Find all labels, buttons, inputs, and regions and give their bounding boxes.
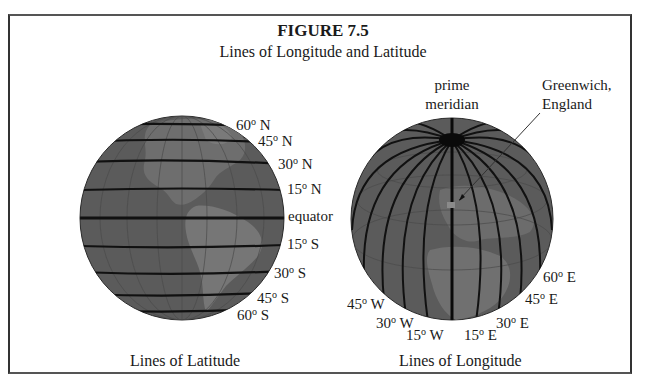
- label-lon-45e: 45o E: [525, 291, 558, 307]
- label-lat-60n: 60o N: [236, 117, 271, 133]
- label-lon-60e: 60o E: [543, 269, 576, 285]
- label-lon-15w: 15o W: [406, 327, 444, 343]
- label-lat-15n: 15o N: [287, 181, 322, 197]
- label-lon-45w: 45o W: [347, 296, 385, 312]
- caption-longitude: Lines of Longitude: [399, 352, 522, 370]
- label-lon-30e: 30o E: [496, 315, 529, 331]
- caption-latitude: Lines of Latitude: [130, 352, 240, 370]
- label-lat-30n: 30o N: [278, 156, 313, 172]
- label-greenwich: Greenwich, England: [542, 76, 612, 114]
- label-lon-15e: 15o E: [464, 327, 497, 343]
- label-lat-45s: 45o S: [257, 290, 289, 306]
- greenwich-marker: [447, 202, 455, 208]
- label-lat-30s: 30o S: [274, 265, 306, 281]
- label-lat-15s: 15o S: [287, 236, 319, 252]
- globes-illustration: [0, 0, 646, 390]
- longitude-globe: [351, 113, 553, 322]
- latitude-globe: [78, 116, 286, 320]
- label-lat-45n: 45o N: [258, 133, 293, 149]
- label-equator: equator: [288, 209, 333, 224]
- label-lat-60s: 60o S: [237, 307, 269, 323]
- label-prime-meridian: prime meridian: [421, 76, 483, 114]
